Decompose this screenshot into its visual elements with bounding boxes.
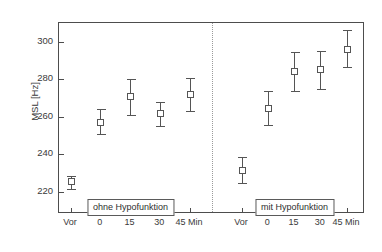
error-bar-cap-lower: [238, 183, 247, 184]
data-point-marker: [291, 68, 298, 75]
error-bar-cap-lower: [264, 125, 273, 126]
x-axis-tick-label: 45 Min: [175, 217, 202, 227]
error-bar-cap-lower: [97, 134, 106, 135]
y-axis-tick-label: 300: [23, 36, 53, 46]
error-bar-cap-lower: [317, 89, 326, 90]
chart-figure: MSL [Hz] 220240260280300 Vor0153045 MinV…: [0, 0, 382, 252]
y-axis-tick-label: 260: [23, 111, 53, 121]
error-bar-cap-upper: [186, 78, 195, 79]
error-bar-cap-upper: [343, 30, 352, 31]
y-axis-tick-label: 240: [23, 148, 53, 158]
error-bar-cap-upper: [97, 109, 106, 110]
error-bar-cap-lower: [67, 189, 76, 190]
x-axis-tick-label: 30: [315, 217, 325, 227]
x-axis-tick: [347, 208, 348, 212]
x-axis-tick-label: 15: [124, 217, 134, 227]
data-point-marker: [265, 105, 272, 112]
x-axis-tick-label: 30: [154, 217, 164, 227]
data-point-marker: [157, 110, 164, 117]
error-bar-cap-lower: [156, 126, 165, 127]
plot-area: ohne Hypofunktionmit Hypofunktion: [58, 22, 364, 213]
data-point-marker: [68, 178, 75, 185]
y-axis-tick-label: 280: [23, 73, 53, 83]
y-axis-tick: [59, 117, 64, 118]
error-bar-cap-lower: [291, 91, 300, 92]
x-axis-tick-label: 15: [288, 217, 298, 227]
x-axis-tick-label: 0: [97, 217, 102, 227]
error-bar-cap-lower: [186, 111, 195, 112]
y-axis-tick: [59, 192, 64, 193]
error-bar-cap-upper: [317, 51, 326, 52]
x-axis-tick-label: Vor: [63, 217, 77, 227]
group-annotation-box: ohne Hypofunktion: [87, 199, 174, 216]
y-axis-tick: [59, 42, 64, 43]
error-bar-cap-upper: [264, 91, 273, 92]
group-annotation-box: mit Hypofunktion: [255, 199, 334, 216]
group-divider-line: [212, 23, 213, 212]
data-point-marker: [187, 91, 194, 98]
error-bar-cap-lower: [343, 67, 352, 68]
data-point-marker: [97, 119, 104, 126]
data-point-marker: [344, 46, 351, 53]
error-bar-cap-upper: [67, 176, 76, 177]
error-bar-cap-upper: [156, 102, 165, 103]
x-axis-tick-label: Vor: [234, 217, 248, 227]
y-axis-tick: [59, 154, 64, 155]
error-bar-cap-upper: [291, 52, 300, 53]
x-axis-tick: [71, 208, 72, 212]
error-bar-cap-lower: [127, 115, 136, 116]
y-axis-tick: [59, 79, 64, 80]
y-axis-tick-label: 220: [23, 186, 53, 196]
data-point-marker: [127, 93, 134, 100]
x-axis-tick: [190, 208, 191, 212]
x-axis-tick-label: 45 Min: [332, 217, 359, 227]
data-point-marker: [317, 66, 324, 73]
data-point-marker: [239, 167, 246, 174]
error-bar-cap-upper: [127, 79, 136, 80]
x-axis-tick-label: 0: [265, 217, 270, 227]
error-bar-cap-upper: [238, 157, 247, 158]
x-axis-tick: [242, 208, 243, 212]
